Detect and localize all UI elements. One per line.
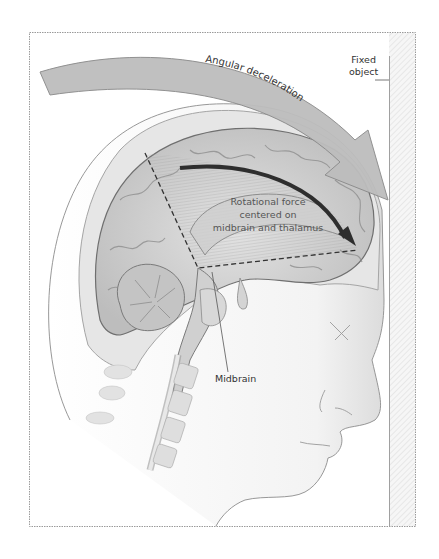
fixed-object-label: Fixed object	[349, 54, 378, 78]
rotational-force-line3: midbrain and thalamus	[198, 221, 338, 234]
rotational-force-line1: Rotational force	[198, 195, 338, 208]
rotational-force-label: Rotational force centered on midbrain an…	[198, 195, 338, 234]
rotational-force-line2: centered on	[198, 208, 338, 221]
fixed-object-line1: Fixed	[349, 54, 378, 66]
illustration-canvas: Angular deceleration	[0, 0, 439, 559]
cerebellum	[117, 264, 184, 330]
fixed-object-wall	[389, 33, 415, 526]
fixed-object-line2: object	[349, 66, 378, 78]
brain-injury-illustration: Angular deceleration Fixed object Rotati…	[0, 0, 439, 559]
midbrain-label: Midbrain	[215, 373, 256, 385]
